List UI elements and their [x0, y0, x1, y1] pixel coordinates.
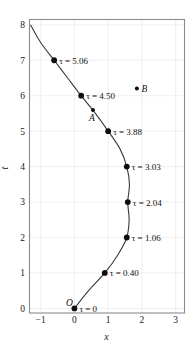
plot-frame — [30, 20, 185, 314]
y-tick-label: 4 — [20, 162, 25, 172]
y-tick-label: 5 — [20, 127, 25, 137]
y-tick-label: 7 — [20, 56, 25, 66]
y-tick-label: 6 — [20, 91, 25, 101]
y-tick-label: 1 — [20, 268, 25, 278]
y-tick-label: 8 — [20, 20, 25, 30]
x-tick-label: 1 — [106, 315, 111, 325]
y-tick-label: 0 — [20, 304, 25, 314]
annotated-point-label: B — [141, 84, 147, 94]
trajectory-figure: −10123 012345678 τ = 0τ = 0.40τ = 1.06τ … — [0, 0, 195, 357]
axes-frame — [30, 20, 185, 314]
x-tick-labels: −10123 — [36, 315, 179, 325]
tau-label: τ = 0.40 — [110, 268, 139, 278]
x-tick-label: 2 — [140, 315, 145, 325]
y-tick-label: 2 — [20, 233, 25, 243]
data-point-dot — [51, 57, 57, 63]
tau-label: τ = 5.06 — [59, 56, 88, 66]
origin-letter-label: O — [66, 298, 73, 308]
tau-label: τ = 4.50 — [86, 91, 115, 101]
x-tick-label: −1 — [36, 315, 46, 325]
y-axis-label: t — [0, 166, 10, 169]
tau-label: τ = 2.04 — [133, 198, 162, 208]
y-tick-label: 3 — [20, 197, 25, 207]
x-tick-label: 0 — [72, 315, 77, 325]
gridlines — [30, 20, 185, 314]
data-point-dot — [78, 93, 84, 99]
tau-label: τ = 3.88 — [113, 127, 142, 137]
annotated-data-points: AB — [88, 84, 147, 123]
data-point-dot — [105, 128, 111, 134]
y-tick-labels: 012345678 — [20, 20, 25, 314]
tau-label: τ = 3.03 — [132, 162, 161, 172]
tau-label: τ = 0 — [79, 304, 97, 314]
annotated-point-label: A — [88, 113, 95, 123]
plot-canvas: −10123 012345678 τ = 0τ = 0.40τ = 1.06τ … — [0, 0, 195, 357]
data-point-dot — [124, 235, 130, 241]
marked-data-points: τ = 0τ = 0.40τ = 1.06τ = 2.04τ = 3.03τ =… — [51, 56, 162, 314]
data-point-dot — [125, 199, 131, 205]
data-point-dot — [124, 164, 130, 170]
x-tick-label: 3 — [173, 315, 178, 325]
annotated-point-dot — [91, 108, 95, 112]
data-point-dot — [102, 270, 108, 276]
annotated-point-dot — [135, 87, 139, 91]
x-axis-label: x — [103, 331, 109, 342]
tau-label: τ = 1.06 — [132, 233, 161, 243]
